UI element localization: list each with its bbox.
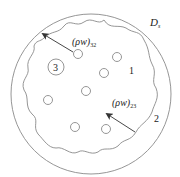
flux-23-label: (ρw)23 [112,97,136,109]
region-1-label: 1 [129,65,134,76]
particle-circle [113,53,122,62]
outer-domain-circle [11,14,171,174]
diagram-canvas: Ds (ρw)32 (ρw)23 1 2 3 [0,0,180,177]
flux-23-arrow [107,114,135,132]
particle-circle [71,123,80,132]
particle-circle [74,50,83,59]
domain-label: Ds [149,16,161,29]
region-3-label: 3 [53,62,58,73]
particle-circle [102,125,111,134]
flux-32-arrow [43,34,73,52]
flux-32-label: (ρw)32 [72,36,96,48]
wavy-interface-boundary [23,20,157,153]
region-2-label: 2 [154,113,159,124]
particle-circle [100,69,109,78]
particle-circle [44,96,53,105]
particle-circle [82,87,91,96]
